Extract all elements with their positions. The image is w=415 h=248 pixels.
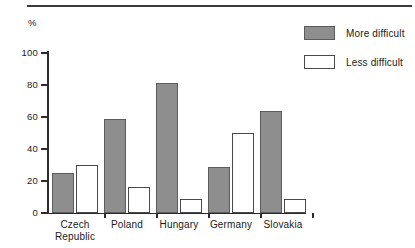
legend-label-less-difficult: Less difficult bbox=[346, 57, 403, 68]
bar-less-difficult bbox=[232, 133, 254, 213]
bar-more-difficult bbox=[104, 119, 126, 213]
bar-more-difficult bbox=[208, 167, 230, 213]
y-axis-tick-label-wrap: 60 bbox=[0, 112, 38, 122]
y-axis-line bbox=[47, 51, 49, 214]
legend-swatch-less-difficult bbox=[304, 55, 335, 69]
x-axis-tick bbox=[260, 213, 262, 218]
y-axis-tick-label: 100 bbox=[4, 48, 38, 58]
y-axis-tick-label: 60 bbox=[4, 112, 38, 122]
legend-item-less-difficult: Less difficult bbox=[304, 55, 405, 69]
y-axis-tick bbox=[41, 212, 48, 214]
y-axis-tick-label: 20 bbox=[4, 176, 38, 186]
y-axis-tick bbox=[41, 148, 48, 150]
y-axis-tick-label-wrap: 0 bbox=[0, 208, 38, 218]
bar-more-difficult bbox=[260, 111, 282, 213]
x-axis-tick bbox=[104, 213, 106, 218]
legend-item-more-difficult: More difficult bbox=[304, 26, 405, 40]
x-axis-tick bbox=[312, 213, 314, 218]
bar-more-difficult bbox=[52, 173, 74, 213]
y-axis-unit-label: % bbox=[28, 18, 36, 28]
y-axis-tick-label-wrap: 80 bbox=[0, 80, 38, 90]
y-axis-tick bbox=[41, 84, 48, 86]
y-axis-tick-label: 0 bbox=[4, 208, 38, 218]
y-axis-tick bbox=[41, 180, 48, 182]
legend-swatch-more-difficult bbox=[304, 26, 335, 40]
bar-less-difficult bbox=[284, 199, 306, 213]
y-axis-tick-label-wrap: 40 bbox=[0, 144, 38, 154]
bar-less-difficult bbox=[76, 165, 98, 213]
x-axis-tick bbox=[208, 213, 210, 218]
chart-legend: More difficult Less difficult bbox=[304, 26, 405, 84]
x-axis-category-label: Slovakia bbox=[250, 219, 316, 231]
y-axis-tick bbox=[41, 52, 48, 54]
bar-more-difficult bbox=[156, 83, 178, 213]
y-axis-tick-label: 40 bbox=[4, 144, 38, 154]
y-axis-tick-label-wrap: 100 bbox=[0, 48, 38, 58]
y-axis-tick-label: 80 bbox=[4, 80, 38, 90]
y-axis-tick-label-wrap: 20 bbox=[0, 176, 38, 186]
bar-less-difficult bbox=[180, 199, 202, 213]
legend-label-more-difficult: More difficult bbox=[346, 28, 405, 39]
bar-less-difficult bbox=[128, 187, 150, 213]
x-axis-tick bbox=[156, 213, 158, 218]
y-axis-tick bbox=[41, 116, 48, 118]
